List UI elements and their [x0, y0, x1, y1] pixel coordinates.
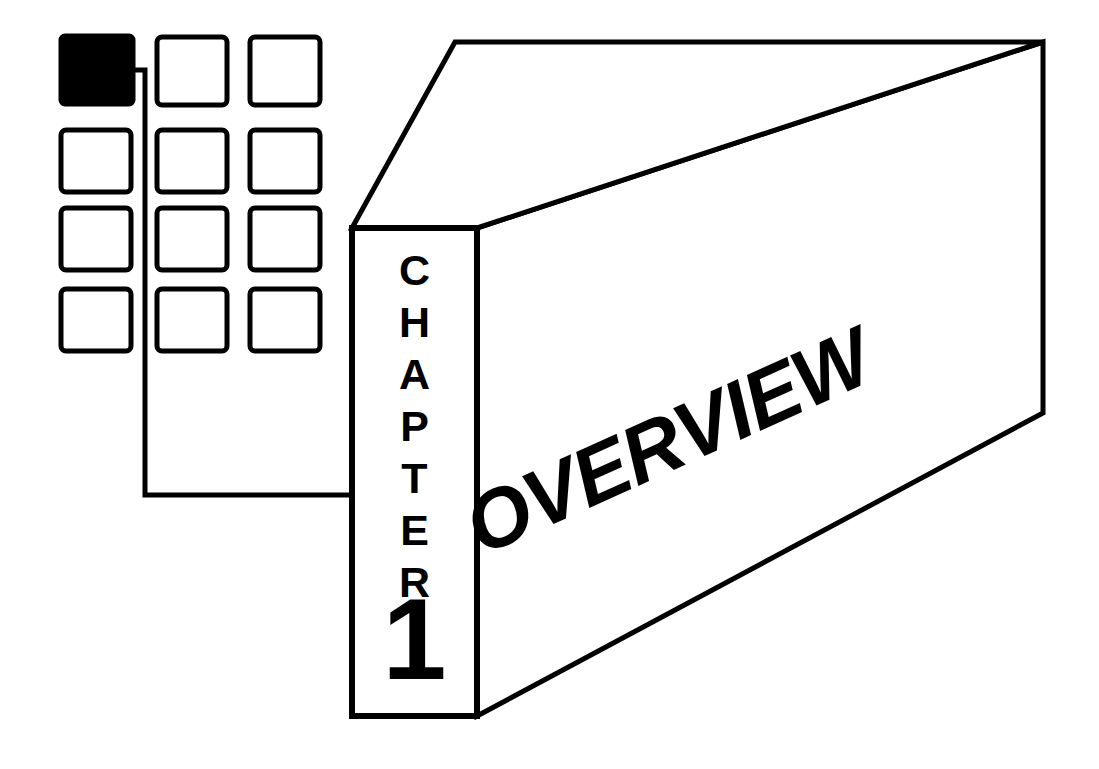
- grid-cell-r2c2[interactable]: [157, 130, 227, 192]
- grid-cell-r4c3[interactable]: [250, 289, 320, 351]
- grid-cell-r1c1-filled[interactable]: [61, 36, 133, 104]
- grid-cell-r3c3[interactable]: [250, 208, 320, 270]
- grid-cell-r2c1[interactable]: [61, 130, 131, 192]
- three-d-slab: [352, 42, 1043, 716]
- grid-cell-r4c1[interactable]: [61, 289, 131, 351]
- grid-cell-r1c3[interactable]: [250, 37, 320, 105]
- chapter-opener-artwork: [0, 0, 1099, 769]
- grid-cell-r1c2[interactable]: [157, 37, 227, 105]
- slab-front-face: [352, 228, 477, 716]
- grid-cell-r4c2[interactable]: [157, 289, 227, 351]
- grid-cell-r3c1[interactable]: [61, 208, 131, 270]
- square-grid: [61, 36, 320, 351]
- grid-cell-r3c2[interactable]: [157, 208, 227, 270]
- grid-cell-r2c3[interactable]: [250, 130, 320, 192]
- chapter-opener-page: C H A P T E R 1 OVERVIEW: [0, 0, 1099, 769]
